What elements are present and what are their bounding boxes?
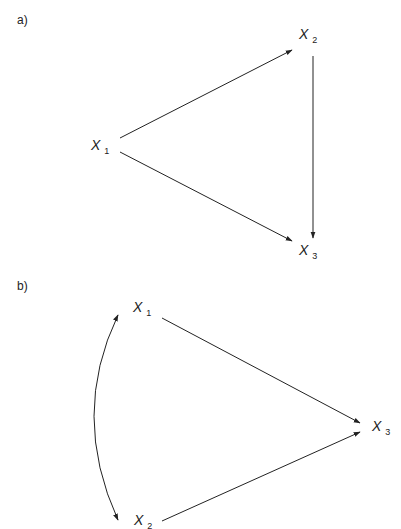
node-a-x3: X3: [299, 242, 317, 261]
node-sub: 3: [385, 427, 390, 437]
edge-b-x1-x3: [162, 318, 360, 423]
node-sub: 1: [104, 146, 109, 156]
node-b-x3: X3: [372, 418, 390, 437]
node-var: X: [134, 512, 143, 528]
node-var: X: [299, 242, 308, 258]
node-sub: 1: [146, 308, 151, 318]
node-sub: 2: [147, 521, 152, 529]
edge-a-x1-x3: [120, 152, 292, 241]
node-a-x1: X1: [91, 137, 109, 156]
node-var: X: [372, 418, 381, 434]
node-var: X: [91, 137, 100, 153]
edge-a-x1-x2: [120, 50, 292, 138]
edge-b-x1-x2-bidirected: [94, 315, 118, 520]
node-a-x2: X2: [299, 26, 317, 45]
node-var: X: [133, 299, 142, 315]
panel-b-label: b): [17, 279, 28, 293]
node-var: X: [299, 26, 308, 42]
edge-b-x2-x3: [162, 432, 360, 521]
node-b-x1: X1: [133, 299, 151, 318]
node-sub: 3: [312, 251, 317, 261]
node-sub: 2: [312, 35, 317, 45]
node-b-x2: X2: [134, 512, 152, 529]
panel-a-label: a): [17, 13, 28, 27]
diagram-canvas: [0, 0, 401, 529]
